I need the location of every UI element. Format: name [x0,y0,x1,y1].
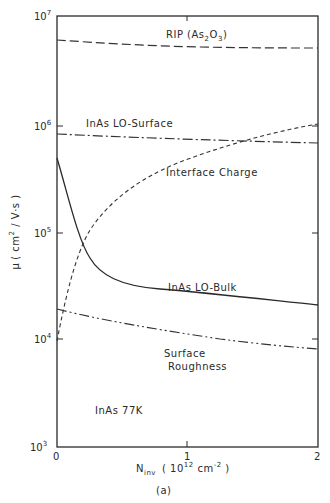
svg-text:105: 105 [34,226,51,239]
mobility-chart: 107 106 105 104 103 0 1 2 Ninv( 1012 cm-… [0,0,330,503]
curve-interface-charge [57,124,318,341]
svg-text:104: 104 [34,332,52,345]
plot-area-frame [57,16,318,447]
curve-lo-surface [57,134,318,143]
panel-label: (a) [156,485,171,496]
x-axis-label: Ninv( 1012 cm-2 ) [136,461,230,477]
curve-rip [57,40,318,48]
svg-text:107: 107 [34,9,51,22]
label-rip: RIP (As2O3) [166,29,227,43]
svg-text:106: 106 [34,119,52,132]
label-lo-surface: InAs LO-Surface [86,118,173,129]
curve-surface-roughness [57,309,318,349]
label-lo-bulk: InAs LO-Bulk [168,282,237,293]
label-surface-roughness-1: Surface [164,348,206,359]
svg-text:0: 0 [53,451,59,462]
svg-text:103: 103 [30,440,47,453]
label-interface-charge: Interface Charge [166,167,258,178]
y-axis-label: μ( cm2 / V·s ) [8,194,21,269]
y-tick-labels: 107 106 105 104 103 [30,9,52,453]
label-surface-roughness-2: Roughness [168,361,227,372]
y-axis-ticks [57,16,318,447]
svg-text:2: 2 [314,451,320,462]
annotation-inas-77k: InAs 77K [95,405,143,416]
